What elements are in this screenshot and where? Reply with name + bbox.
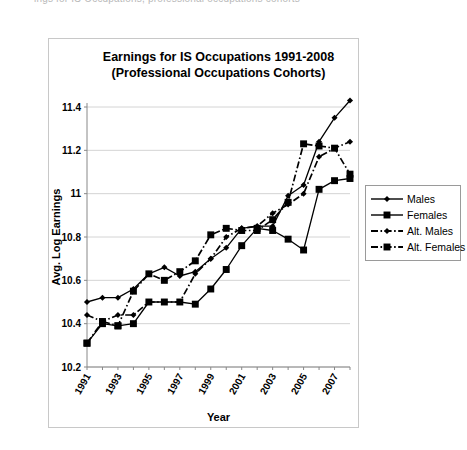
svg-text:10.2: 10.2 — [62, 362, 82, 373]
legend-label-alt-females: Alt. Females — [407, 241, 465, 253]
svg-text:1997: 1997 — [165, 371, 186, 396]
legend-key-males — [370, 192, 404, 206]
svg-text:10.4: 10.4 — [62, 318, 82, 329]
y-axis-label: Avg. Log Earnings — [50, 189, 62, 286]
legend-label-alt-males: Alt. Males — [407, 225, 453, 237]
data-series-group — [84, 97, 354, 346]
series-markers-alt-females — [84, 140, 354, 346]
svg-text:10.6: 10.6 — [62, 275, 82, 286]
svg-text:Year: Year — [207, 411, 231, 423]
x-axis-label: Year — [207, 411, 231, 423]
chart-frame: Earnings for IS Occupations 1991-2008(Pr… — [48, 38, 359, 428]
svg-text:2005: 2005 — [289, 371, 310, 396]
legend-item[interactable]: Alt. Males — [370, 223, 456, 239]
series-markers-males — [84, 97, 353, 305]
svg-text:2003: 2003 — [258, 371, 279, 396]
legend-key-alt-males — [370, 224, 404, 238]
legend-item[interactable]: Males — [370, 191, 456, 207]
legend-item[interactable]: Alt. Females — [370, 239, 456, 255]
y-axis: 11.411.21110.810.610.410.2 — [62, 102, 87, 373]
legend-key-females — [370, 208, 404, 222]
svg-text:Avg. Log Earnings: Avg. Log Earnings — [50, 189, 62, 286]
legend-item[interactable]: Females — [370, 207, 456, 223]
svg-text:2007: 2007 — [320, 371, 341, 396]
svg-text:11.2: 11.2 — [62, 145, 81, 156]
svg-text:2001: 2001 — [227, 371, 248, 396]
series-markers-females — [84, 175, 354, 347]
caption-text: ings for IS Occupations, professional oc… — [34, 0, 467, 4]
chart-legend: Males Females Alt. Males Alt. Females — [365, 185, 461, 261]
svg-text:1993: 1993 — [103, 371, 124, 396]
earnings-line-chart: Earnings for IS Occupations 1991-2008(Pr… — [49, 39, 358, 427]
svg-text:11: 11 — [70, 188, 81, 199]
svg-text:10.8: 10.8 — [62, 232, 82, 243]
svg-text:Earnings for IS Occupations 19: Earnings for IS Occupations 1991-2008 — [103, 50, 334, 64]
page-caption-fragment: ings for IS Occupations, professional oc… — [0, 0, 467, 14]
legend-key-alt-females — [370, 240, 404, 254]
x-axis: 199119931995199719992001200320052007 — [72, 367, 350, 396]
grid-lines — [87, 107, 350, 367]
legend-label-males: Males — [407, 193, 435, 205]
series-line-males — [87, 101, 350, 303]
svg-text:1991: 1991 — [72, 371, 93, 396]
svg-text:(Professional Occupations Coho: (Professional Occupations Cohorts) — [112, 66, 326, 80]
chart-title: Earnings for IS Occupations 1991-2008(Pr… — [103, 50, 334, 80]
legend-label-females: Females — [407, 209, 447, 221]
series-line-alt-females — [87, 144, 350, 343]
svg-text:1995: 1995 — [134, 371, 155, 396]
svg-text:11.4: 11.4 — [62, 102, 81, 113]
svg-text:1999: 1999 — [196, 371, 217, 396]
series-line-females — [87, 179, 350, 344]
